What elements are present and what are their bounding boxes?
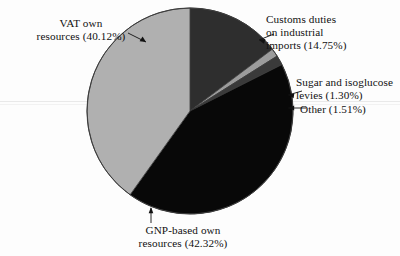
slice-label-customs-line1: Customs duties xyxy=(266,13,347,26)
slice-label-vat-line2: resources (40.12%) xyxy=(6,30,156,43)
slice-label-other-line1: Other (1.51%) xyxy=(300,103,366,116)
slice-label-sugar-line1: Sugar and isoglucose xyxy=(296,76,393,89)
pie-chart-figure: VAT own resources (40.12%) Customs dutie… xyxy=(0,0,400,256)
arrowhead-gnp xyxy=(149,207,154,213)
slice-label-gnp-line1: GNP-based own xyxy=(98,224,268,237)
slice-label-sugar-line2: levies (1.30%) xyxy=(296,89,393,102)
slice-label-customs-line2: on industrial xyxy=(266,26,347,39)
slice-label-customs-line3: imports (14.75%) xyxy=(266,39,347,52)
slice-label-other: Other (1.51%) xyxy=(300,103,366,116)
slice-label-gnp: GNP-based own resources (42.32%) xyxy=(98,224,268,250)
slice-label-gnp-line2: resources (42.32%) xyxy=(98,237,268,250)
slice-label-vat: VAT own resources (40.12%) xyxy=(6,17,156,43)
slice-label-vat-line1: VAT own xyxy=(6,17,156,30)
slice-label-sugar: Sugar and isoglucose levies (1.30%) xyxy=(296,76,393,102)
slice-label-customs: Customs duties on industrial imports (14… xyxy=(266,13,347,53)
